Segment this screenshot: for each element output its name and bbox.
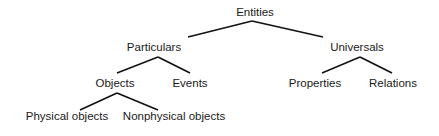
edge-particulars-events: [158, 57, 190, 73]
node-universals: Universals: [330, 41, 384, 53]
node-particulars: Particulars: [127, 41, 181, 53]
node-nonphysical-objects: Nonphysical objects: [123, 110, 225, 122]
edge-universals-properties: [322, 57, 360, 73]
edge-particulars-objects: [117, 57, 158, 73]
edge-universals-relations: [360, 57, 392, 73]
node-properties: Properties: [289, 77, 341, 89]
node-objects: Objects: [96, 77, 135, 89]
edge-entities-universals: [252, 21, 323, 37]
edge-objects-physical: [80, 93, 117, 110]
node-events: Events: [172, 77, 207, 89]
node-physical-objects: Physical objects: [26, 110, 108, 122]
edge-entities-particulars: [188, 21, 252, 37]
edge-objects-nonphysical: [117, 93, 158, 110]
node-entities: Entities: [236, 6, 274, 18]
node-relations: Relations: [369, 77, 417, 89]
ontology-tree-diagram: Entities Particulars Universals Objects …: [0, 0, 439, 136]
